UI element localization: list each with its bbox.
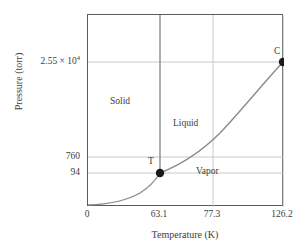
x-tick-label-126-2: 126.2 [264,209,300,219]
region-label-vapor: Vapor [196,166,219,176]
y-tick-label-760: 760 [2,151,80,161]
region-label-liquid: Liquid [173,118,198,128]
plot-area: Solid Liquid Vapor T C [87,14,283,206]
triple-point-label: T [148,156,154,166]
x-tick-label-63-1: 63.1 [143,209,175,219]
y-tick-label-25500-mantissa: 2.55 × 10 [41,56,77,66]
critical-point-label: C [274,46,280,56]
y-tick-label-25500: 2.55 × 104 [2,56,80,66]
phase-diagram-plot [88,15,284,207]
curve-sublimation [88,173,160,205]
y-tick-label-94: 94 [2,167,80,177]
region-label-solid: Solid [110,96,130,106]
x-tick-label-0: 0 [71,209,103,219]
phase-diagram-figure: Pressure (torr) 2.55 × 104 760 94 0 63.1… [0,0,305,251]
y-axis-title: Pressure (torr) [13,27,24,137]
x-axis-title: Temperature (K) [87,229,283,240]
x-tick-label-77-3: 77.3 [196,209,228,219]
y-tick-label-25500-exponent: 4 [77,54,80,61]
triple-point-marker [156,169,164,177]
